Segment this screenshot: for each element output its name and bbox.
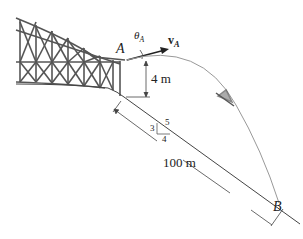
- slope-hyp-label: 5: [165, 118, 170, 127]
- point-a-label: A: [116, 42, 125, 56]
- ground-profile: [16, 84, 300, 224]
- theta-label: θA: [134, 30, 144, 44]
- distance-dimension: [113, 101, 283, 226]
- theta-subscript: A: [139, 35, 144, 44]
- trajectory-path: [126, 55, 279, 203]
- slope-rise-label: 3: [150, 124, 155, 133]
- height-dimension: [126, 61, 150, 97]
- height-label: 4 m: [151, 72, 171, 85]
- velocity-label: vA: [168, 34, 180, 50]
- velocity-subscript: A: [174, 40, 180, 49]
- slope-run-label: 4: [162, 135, 167, 144]
- ski-jump-diagram: A θA vA 4 m 3 5 4 100 m B: [0, 0, 303, 239]
- point-b-label: B: [273, 200, 282, 214]
- distance-label: 100 m: [163, 156, 196, 169]
- diagram-canvas: [0, 0, 303, 239]
- theta-arc: [140, 50, 143, 59]
